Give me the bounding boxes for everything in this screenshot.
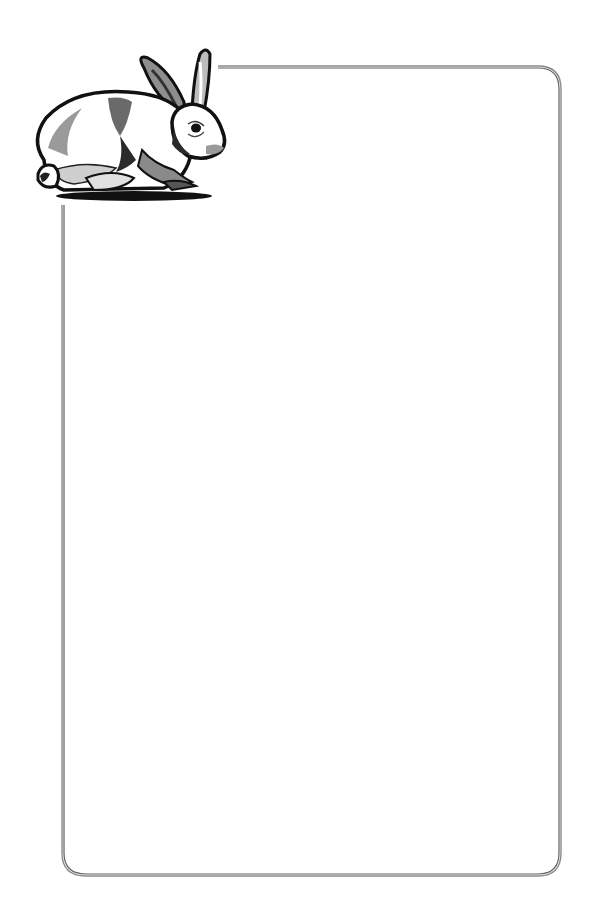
- rabbit-icon: [24, 40, 234, 210]
- rabbit-shadow: [56, 191, 212, 201]
- rabbit-eye: [191, 124, 201, 133]
